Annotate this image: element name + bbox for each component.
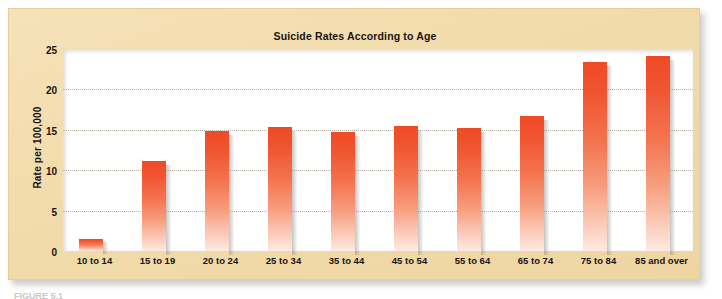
figure-root: Suicide Rates According to Age Rate per … <box>0 0 722 299</box>
plot-area: 0510152025 <box>63 49 693 251</box>
y-tick-label: 5 <box>51 206 57 217</box>
bar[interactable] <box>205 131 229 251</box>
x-axis-labels: 10 to 1415 to 1920 to 2425 to 3435 to 44… <box>63 255 693 273</box>
y-tick-label: 20 <box>46 85 57 96</box>
bar[interactable] <box>394 126 418 251</box>
x-tick-label: 45 to 54 <box>378 255 441 266</box>
x-tick-label: 55 to 64 <box>441 255 504 266</box>
bar-slot <box>315 49 378 251</box>
y-axis-label: Rate per 100,000 <box>32 73 43 223</box>
bar-slot <box>630 49 693 251</box>
x-tick-label: 85 and over <box>630 255 693 266</box>
y-tick-label: 10 <box>46 166 57 177</box>
chart-title: Suicide Rates According to Age <box>9 30 701 42</box>
bar[interactable] <box>583 62 607 251</box>
bar[interactable] <box>268 127 292 251</box>
bar[interactable] <box>79 239 103 251</box>
bar-slot <box>567 49 630 251</box>
bars-layer <box>63 49 693 251</box>
bar[interactable] <box>520 116 544 251</box>
x-tick-label: 75 to 84 <box>567 255 630 266</box>
bar[interactable] <box>331 132 355 251</box>
bar[interactable] <box>142 161 166 251</box>
y-tick-label: 0 <box>51 247 57 258</box>
x-tick-label: 15 to 19 <box>126 255 189 266</box>
bar-slot <box>189 49 252 251</box>
bar[interactable] <box>646 56 670 251</box>
bar-slot <box>63 49 126 251</box>
bar[interactable] <box>457 128 481 251</box>
chart-panel: Suicide Rates According to Age Rate per … <box>8 8 700 280</box>
bar-slot <box>378 49 441 251</box>
bar-slot <box>441 49 504 251</box>
bar-slot <box>252 49 315 251</box>
y-tick-label: 25 <box>46 45 57 56</box>
bar-slot <box>504 49 567 251</box>
bar-slot <box>126 49 189 251</box>
y-tick-label: 15 <box>46 125 57 136</box>
x-tick-label: 10 to 14 <box>63 255 126 266</box>
x-tick-label: 35 to 44 <box>315 255 378 266</box>
figure-caption: FIGURE 5.1 <box>14 292 63 299</box>
gridline: 0 <box>63 251 693 252</box>
x-tick-label: 20 to 24 <box>189 255 252 266</box>
x-tick-label: 65 to 74 <box>504 255 567 266</box>
x-tick-label: 25 to 34 <box>252 255 315 266</box>
